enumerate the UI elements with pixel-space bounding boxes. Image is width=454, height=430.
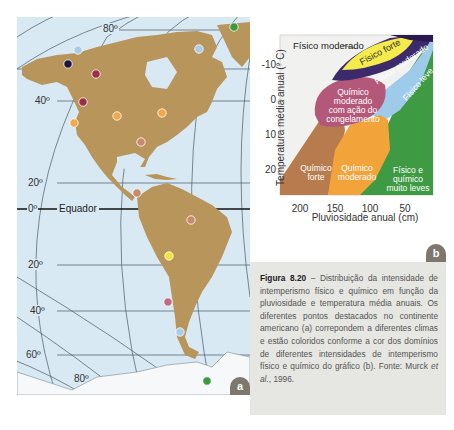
- figure-caption-box: Figura 8.20 – Distribuição da intensidad…: [250, 262, 446, 415]
- climate-point: [158, 109, 166, 117]
- caption-body: – Distribuição da intensidade de intempe…: [260, 273, 438, 371]
- panel-label-b: b: [426, 244, 446, 262]
- figure-number: Figura 8.20: [260, 273, 306, 283]
- label-line: muito leves: [380, 184, 436, 193]
- climate-point: [113, 112, 121, 120]
- americas-map: 80º 40º 20º 0º Equador 20º 40º 60º 80º a: [17, 17, 250, 395]
- climate-point: [195, 45, 203, 53]
- label-muito-leves: Físico e químico muito leves: [380, 166, 436, 193]
- caribbean-islands: [145, 174, 177, 180]
- y-tick: 0: [256, 94, 276, 105]
- climate-point: [92, 70, 100, 78]
- map-graphic: [17, 17, 250, 395]
- y-axis-label: Temperatura média anual (° C): [275, 43, 286, 193]
- climate-point: [176, 328, 184, 336]
- label-fisico-moderado-top: Físico moderado: [293, 40, 364, 51]
- climate-point: [164, 298, 172, 306]
- equator-label: Equador: [57, 203, 99, 214]
- label-quimico-forte: Químico forte: [297, 164, 335, 182]
- label-quimico-moderado: Químico moderado: [333, 164, 381, 182]
- lat-label-40s: 40º: [29, 305, 46, 316]
- y-tick: -10: [256, 59, 276, 70]
- panel-label-a: a: [230, 377, 250, 395]
- climate-point: [133, 189, 141, 197]
- label-line: congelamento: [318, 115, 388, 124]
- climate-point: [70, 119, 78, 127]
- lat-label-80s: 80º: [73, 373, 90, 384]
- y-tick: 20: [256, 164, 276, 175]
- lat-label-20s: 20º: [27, 259, 44, 270]
- climate-point: [165, 252, 173, 260]
- climate-point: [74, 46, 82, 54]
- climate-point: [187, 216, 195, 224]
- lat-label-0: 0º: [27, 203, 38, 214]
- lat-label-60s: 60º: [25, 349, 42, 360]
- lat-label-20n: 20º: [27, 177, 44, 188]
- climate-point: [230, 23, 238, 31]
- climate-point: [79, 98, 87, 106]
- climate-point: [64, 60, 72, 68]
- caption-year: , 1996.: [269, 374, 294, 384]
- y-tick: 10: [256, 129, 276, 140]
- label-line: moderado: [333, 173, 381, 182]
- label-line: forte: [297, 173, 335, 182]
- lat-label-80n: 80º: [102, 23, 119, 34]
- climate-point: [137, 138, 145, 146]
- x-axis-label: Pluviosidade anual (cm): [305, 212, 425, 223]
- figure-caption: Figura 8.20 – Distribuição da intensidad…: [260, 272, 438, 385]
- label-quimico-congelamento: Químico moderado com ação do congelament…: [318, 88, 388, 124]
- climate-point: [203, 377, 211, 385]
- north-america: [22, 31, 227, 201]
- lat-label-40n: 40º: [34, 95, 51, 106]
